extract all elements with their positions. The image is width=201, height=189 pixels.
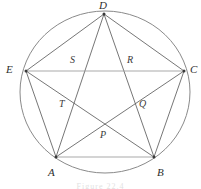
figure-canvas	[0, 0, 201, 189]
vertex-label-b: B	[157, 167, 164, 178]
geometry-figure: DECABSRTQP Figure 22.4	[0, 0, 201, 189]
vertex-dot-b	[153, 156, 156, 159]
vertex-label-e: E	[6, 64, 13, 75]
chord-db	[104, 14, 154, 157]
intersection-label-r: R	[127, 55, 133, 65]
vertex-dot-c	[183, 70, 186, 73]
vertex-dot-a	[55, 156, 58, 159]
intersection-label-s: S	[70, 55, 75, 65]
chord-ea	[26, 71, 56, 157]
vertex-label-a: A	[48, 167, 55, 178]
intersection-label-q: Q	[139, 99, 146, 109]
intersection-label-p: P	[100, 130, 106, 140]
vertex-label-d: D	[99, 0, 107, 11]
vertex-dot-d	[103, 13, 106, 16]
chord-da	[56, 14, 104, 157]
chord-ca	[56, 71, 184, 157]
chord-eb	[26, 71, 154, 157]
chord-cb	[154, 71, 184, 157]
vertex-label-c: C	[190, 64, 198, 75]
figure-caption: Figure 22.4	[0, 182, 201, 189]
circumcircle	[20, 11, 190, 173]
intersection-label-t: T	[59, 99, 65, 109]
vertex-dot-e	[25, 70, 28, 73]
